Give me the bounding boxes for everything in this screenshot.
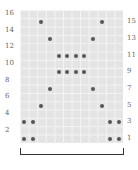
stitch-dot: [48, 87, 52, 91]
stitch-dot: [117, 120, 121, 124]
row-label: 3: [127, 117, 131, 125]
row-label: 4: [5, 109, 9, 117]
row-label: 16: [5, 9, 14, 17]
stitch-dot: [65, 54, 69, 58]
row-label: 12: [5, 42, 14, 50]
row-label: 1: [127, 134, 131, 142]
repeat-bracket: [20, 148, 124, 155]
row-label: 13: [127, 34, 136, 42]
stitch-dot: [31, 137, 35, 141]
row-label: 6: [5, 92, 9, 100]
row-label: 15: [127, 17, 136, 25]
row-label: 10: [5, 59, 14, 67]
stitch-dot: [57, 54, 61, 58]
stitch-dot: [117, 137, 121, 141]
row-label: 2: [5, 126, 9, 134]
row-label: 7: [127, 84, 131, 92]
stitch-dot: [100, 104, 104, 108]
row-label: 11: [127, 51, 136, 59]
row-label: 8: [5, 76, 9, 84]
stitch-dot: [91, 87, 95, 91]
row-label: 14: [5, 26, 14, 34]
row-label: 5: [127, 101, 131, 109]
row-label: 9: [127, 67, 131, 75]
stitch-dot: [108, 137, 112, 141]
stitch-dot: [74, 54, 78, 58]
